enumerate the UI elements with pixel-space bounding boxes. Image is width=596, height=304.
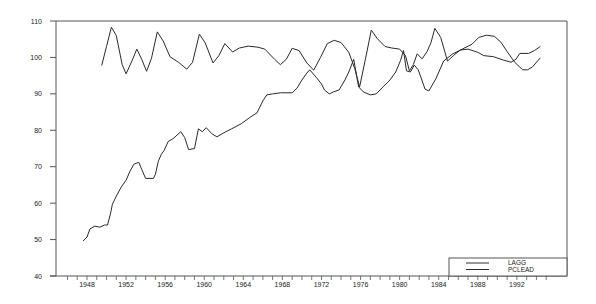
chart: 405060708090100110 194819521956196019641… bbox=[0, 0, 596, 304]
legend-label-lagg: LAGG bbox=[508, 259, 526, 266]
y-axis: 405060708090100110 bbox=[30, 18, 56, 280]
series-lines bbox=[83, 27, 540, 241]
x-tick-label: 1960 bbox=[196, 281, 212, 288]
x-tick-label: 1980 bbox=[392, 281, 408, 288]
y-tick-label: 60 bbox=[34, 200, 42, 207]
x-tick-label: 1992 bbox=[509, 281, 525, 288]
x-tick-label: 1968 bbox=[275, 281, 291, 288]
y-tick-label: 90 bbox=[34, 90, 42, 97]
x-tick-label: 1948 bbox=[79, 281, 95, 288]
x-tick-label: 1956 bbox=[157, 281, 173, 288]
plot-area: 405060708090100110 194819521956196019641… bbox=[0, 0, 596, 304]
y-tick-label: 40 bbox=[34, 273, 42, 280]
x-tick-label: 1984 bbox=[431, 281, 447, 288]
legend-label-pclead: PCLEAD bbox=[508, 266, 534, 273]
y-tick-label: 50 bbox=[34, 236, 42, 243]
x-tick-label: 1964 bbox=[236, 281, 252, 288]
y-tick-label: 70 bbox=[34, 163, 42, 170]
series-pclead bbox=[102, 27, 541, 87]
y-tick-label: 110 bbox=[31, 18, 42, 25]
x-axis: 1948195219561960196419681972197619801984… bbox=[67, 276, 546, 288]
x-tick-label: 1976 bbox=[353, 281, 369, 288]
series-lagg bbox=[83, 35, 540, 241]
x-tick-label: 1972 bbox=[314, 281, 330, 288]
axes-frame bbox=[50, 21, 567, 276]
x-tick-label: 1952 bbox=[118, 281, 134, 288]
y-tick-label: 80 bbox=[34, 127, 42, 134]
y-tick-label: 100 bbox=[30, 54, 42, 61]
x-tick-label: 1988 bbox=[470, 281, 486, 288]
